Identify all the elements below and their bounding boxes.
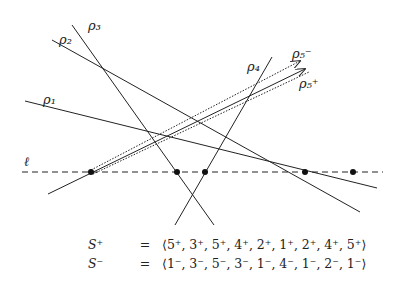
- s-minus-sequence: ⟨1⁻, 3⁻, 5⁻, 3⁻, 1⁻, 4⁻, 1⁻, 2⁻, 1⁻⟩: [162, 256, 366, 271]
- label-rho5-plus: ρ₅⁺: [299, 77, 319, 90]
- intersection-dot: [302, 169, 308, 175]
- line-rho5-minus: [91, 61, 300, 170]
- label-rho3: ρ₃: [88, 19, 101, 32]
- label-rho5-minus: ρ₅⁻: [292, 47, 312, 60]
- line-rho4: [175, 57, 272, 225]
- s-plus-symbol: S⁺: [88, 237, 128, 252]
- label-rho1: ρ₁: [43, 93, 56, 106]
- line-rho5: [48, 69, 305, 194]
- s-plus-sequence: ⟨5⁺, 3⁺, 5⁺, 4⁺, 2⁺, 1⁺, 2⁺, 4⁺, 5⁺⟩: [162, 237, 366, 252]
- intersection-dot: [88, 169, 94, 175]
- label-rho2: ρ₂: [59, 33, 72, 46]
- label-ell: ℓ: [24, 155, 29, 168]
- sequence-s-plus: S⁺=⟨5⁺, 3⁺, 5⁺, 4⁺, 2⁺, 1⁺, 2⁺, 4⁺, 5⁺⟩: [88, 237, 366, 252]
- label-rho4: ρ₄: [247, 60, 260, 73]
- intersection-dot: [174, 169, 180, 175]
- intersection-dot: [350, 169, 356, 175]
- equals-sign: =: [128, 237, 162, 252]
- line-rho2: [52, 40, 360, 212]
- sequence-s-minus: S⁻=⟨1⁻, 3⁻, 5⁻, 3⁻, 1⁻, 4⁻, 1⁻, 2⁻, 1⁻⟩: [88, 256, 366, 271]
- equals-sign: =: [128, 256, 162, 271]
- s-minus-symbol: S⁻: [88, 256, 128, 271]
- intersection-dot: [202, 169, 208, 175]
- line-rho1: [25, 101, 377, 188]
